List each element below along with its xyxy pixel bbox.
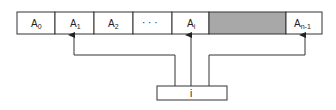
- pointer-to-an-1: [209, 35, 305, 86]
- pointer-to-a1: [74, 35, 175, 86]
- index-box-label: i: [190, 88, 192, 99]
- array: A0 A1 A2 · · · Ai An-1: [17, 12, 322, 34]
- cell-ellipsis-label: · · ·: [142, 17, 158, 28]
- index-box: i: [157, 86, 227, 100]
- cell-shaded: [209, 12, 286, 34]
- array-index-diagram: A0 A1 A2 · · · Ai An-1 i: [0, 0, 336, 110]
- pointers: [74, 35, 305, 86]
